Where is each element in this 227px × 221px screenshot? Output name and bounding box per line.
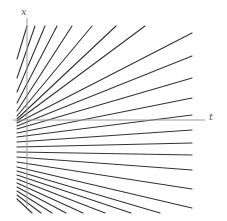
characteristic-ray bbox=[17, 26, 145, 121]
characteristic-ray bbox=[17, 167, 192, 208]
plot-canvas bbox=[0, 0, 227, 221]
characteristic-ray bbox=[17, 26, 72, 111]
characteristic-ray bbox=[17, 130, 192, 142]
characteristic-ray bbox=[17, 191, 52, 213]
characteristic-ray bbox=[17, 115, 192, 137]
characteristic-ray bbox=[17, 26, 92, 116]
characteristic-ray bbox=[17, 33, 192, 123]
characteristic-ray bbox=[17, 26, 116, 119]
characteristic-ray bbox=[17, 157, 192, 170]
characteristic-ray bbox=[17, 143, 192, 147]
axis-label-t: t bbox=[209, 112, 213, 122]
characteristic-ray bbox=[17, 152, 192, 155]
axis-label-x: x bbox=[21, 7, 27, 17]
characteristic-lines-figure: x t bbox=[0, 0, 227, 221]
characteristic-ray bbox=[17, 162, 192, 189]
